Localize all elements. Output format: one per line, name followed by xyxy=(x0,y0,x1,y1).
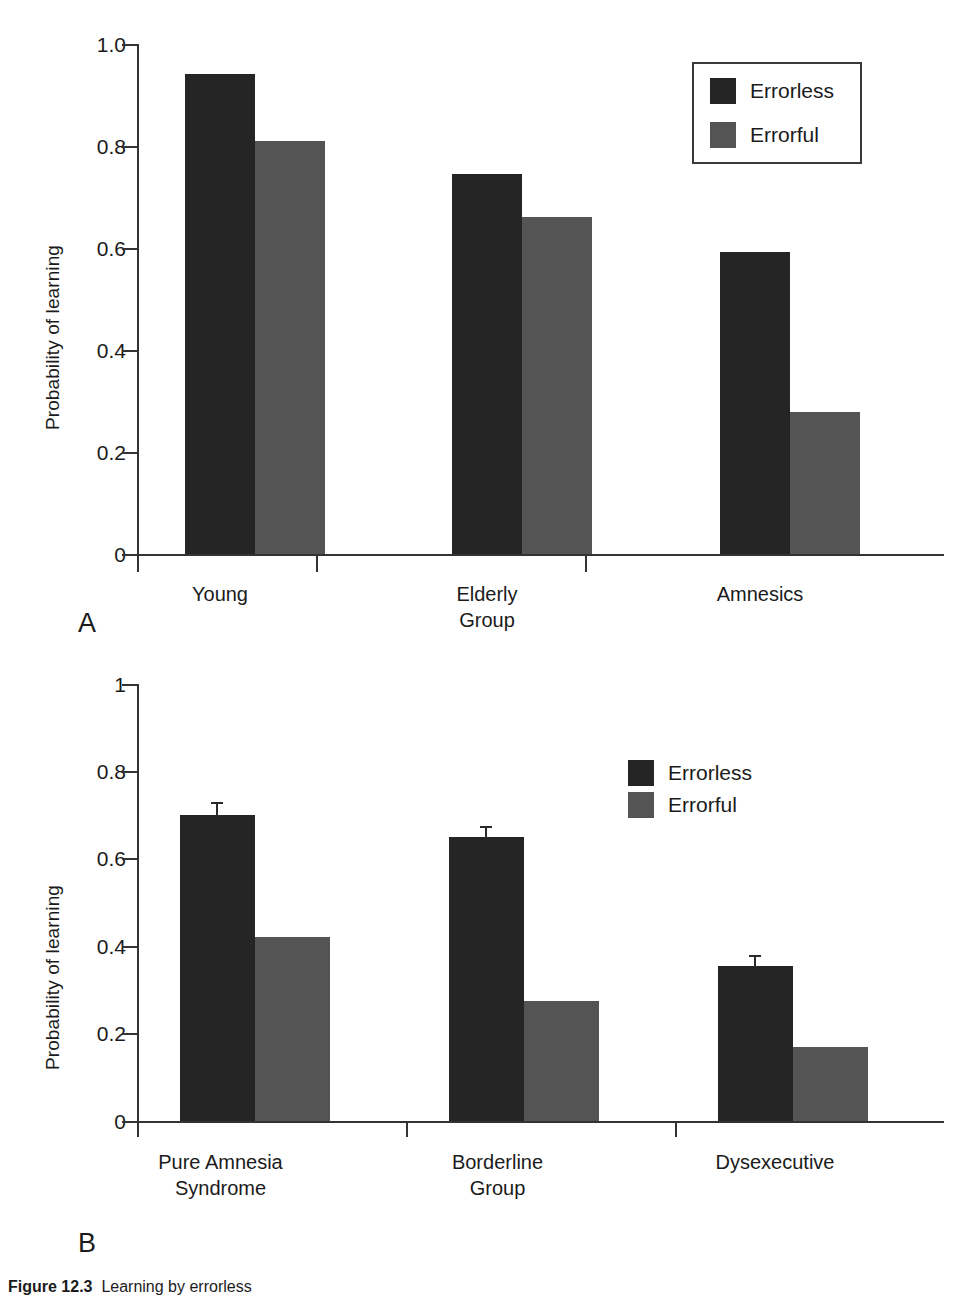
bar-errorless-dysexecutive xyxy=(718,966,793,1121)
panel-b-x-separator xyxy=(675,1121,677,1137)
bar-errorless-amnesics xyxy=(720,252,790,554)
bar-errorless-borderline xyxy=(449,837,524,1121)
bar-errorless-young xyxy=(185,74,255,554)
panel-a-y-axis xyxy=(137,44,139,556)
panel-a-ytick-2: 0.8 xyxy=(60,135,126,159)
panel-a-ytick-4: 0.4 xyxy=(60,339,126,363)
panel-a-tickmark xyxy=(122,248,138,250)
legend-row-errorful: Errorful xyxy=(628,792,752,818)
errorbar-errorless-pure-amnesia xyxy=(216,802,218,816)
panel-b-ytick-2: 0.8 xyxy=(60,760,126,784)
legend-swatch-errorful-icon xyxy=(710,122,736,148)
bar-errorful-borderline xyxy=(524,1001,599,1121)
panel-b-ytick-1: 1 xyxy=(60,673,126,697)
panel-a-tickmark xyxy=(122,146,138,148)
panel-b-ytick-6: 0 xyxy=(60,1110,126,1134)
bar-errorless-pure-amnesia xyxy=(180,815,255,1121)
bar-errorful-pure-amnesia xyxy=(255,937,330,1121)
panel-b-legend: Errorless Errorful xyxy=(628,760,752,818)
panel-b-tickmark xyxy=(122,858,138,860)
panel-a-x-axis xyxy=(137,554,944,556)
panel-b-ytick-3: 0.6 xyxy=(60,847,126,871)
panel-b-tickmark xyxy=(122,1121,138,1123)
panel-b-category-dysexecutive: Dysexecutive xyxy=(690,1150,860,1176)
panel-a-ytick-5: 0.2 xyxy=(60,441,126,465)
panel-b-x-axis xyxy=(137,1121,944,1123)
bar-errorful-dysexecutive xyxy=(793,1047,868,1121)
panel-a-legend: Errorless Errorful xyxy=(692,62,862,164)
bar-errorful-young xyxy=(255,141,325,554)
panel-a-tickmark xyxy=(122,554,138,556)
legend-swatch-errorless-icon xyxy=(710,78,736,104)
panel-a-category-amnesics: Amnesics xyxy=(695,582,825,608)
legend-label-errorless: Errorless xyxy=(668,761,752,785)
legend-swatch-errorful-icon xyxy=(628,792,654,818)
bar-errorless-elderly xyxy=(452,174,522,554)
errorbar-errorless-dysexecutive xyxy=(754,955,756,967)
legend-row-errorless: Errorless xyxy=(628,760,752,786)
legend-label-errorless: Errorless xyxy=(750,79,834,103)
panel-a-x-separator xyxy=(585,554,587,572)
bar-errorful-amnesics xyxy=(790,412,860,554)
panel-a-ytick-3: 0.6 xyxy=(60,237,126,261)
panel-letter-a: A xyxy=(78,608,96,639)
chart-panel-b: Probability of learning 1 0.8 0.6 0.4 0.… xyxy=(0,650,967,1270)
panel-a-ytick-1: 1.0 xyxy=(60,33,126,57)
panel-a-y-axis-title: Probability of learning xyxy=(42,245,64,430)
panel-a-category-young: Young xyxy=(160,582,280,608)
bar-errorful-elderly xyxy=(522,217,592,554)
panel-b-category-borderline: Borderline Group xyxy=(425,1150,570,1201)
panel-b-category-pure-amnesia: Pure Amnesia Syndrome xyxy=(133,1150,308,1201)
legend-row-errorless: Errorless xyxy=(710,78,834,104)
panel-b-tickmark xyxy=(122,684,138,686)
panel-a-tickmark xyxy=(122,44,138,46)
legend-row-errorful: Errorful xyxy=(710,122,834,148)
legend-swatch-errorless-icon xyxy=(628,760,654,786)
panel-b-y-axis xyxy=(137,684,139,1123)
panel-b-tickmark xyxy=(122,946,138,948)
figure-caption-label: Figure 12.3 xyxy=(8,1278,92,1295)
panel-a-ytick-6: 0 xyxy=(60,543,126,567)
figure-caption-text: Learning by errorless xyxy=(101,1278,251,1295)
panel-b-tickmark xyxy=(122,771,138,773)
panel-b-x-separator xyxy=(406,1121,408,1137)
panel-a-x-separator xyxy=(316,554,318,572)
panel-a-tickmark xyxy=(122,452,138,454)
panel-letter-b: B xyxy=(78,1228,96,1259)
errorbar-errorless-borderline xyxy=(485,826,487,838)
legend-label-errorful: Errorful xyxy=(750,123,819,147)
panel-b-tickmark xyxy=(122,1033,138,1035)
chart-panel-a: Probability of learning 1.0 0.8 0.6 0.4 … xyxy=(0,0,967,650)
panel-b-ytick-5: 0.2 xyxy=(60,1022,126,1046)
panel-a-x-separator xyxy=(137,554,139,572)
panel-a-tickmark xyxy=(122,350,138,352)
panel-b-ytick-4: 0.4 xyxy=(60,935,126,959)
legend-label-errorful: Errorful xyxy=(668,793,737,817)
panel-b-x-separator xyxy=(137,1121,139,1137)
figure-caption: Figure 12.3 Learning by errorless xyxy=(8,1278,252,1296)
panel-a-category-elderly: Elderly Group xyxy=(427,582,547,633)
